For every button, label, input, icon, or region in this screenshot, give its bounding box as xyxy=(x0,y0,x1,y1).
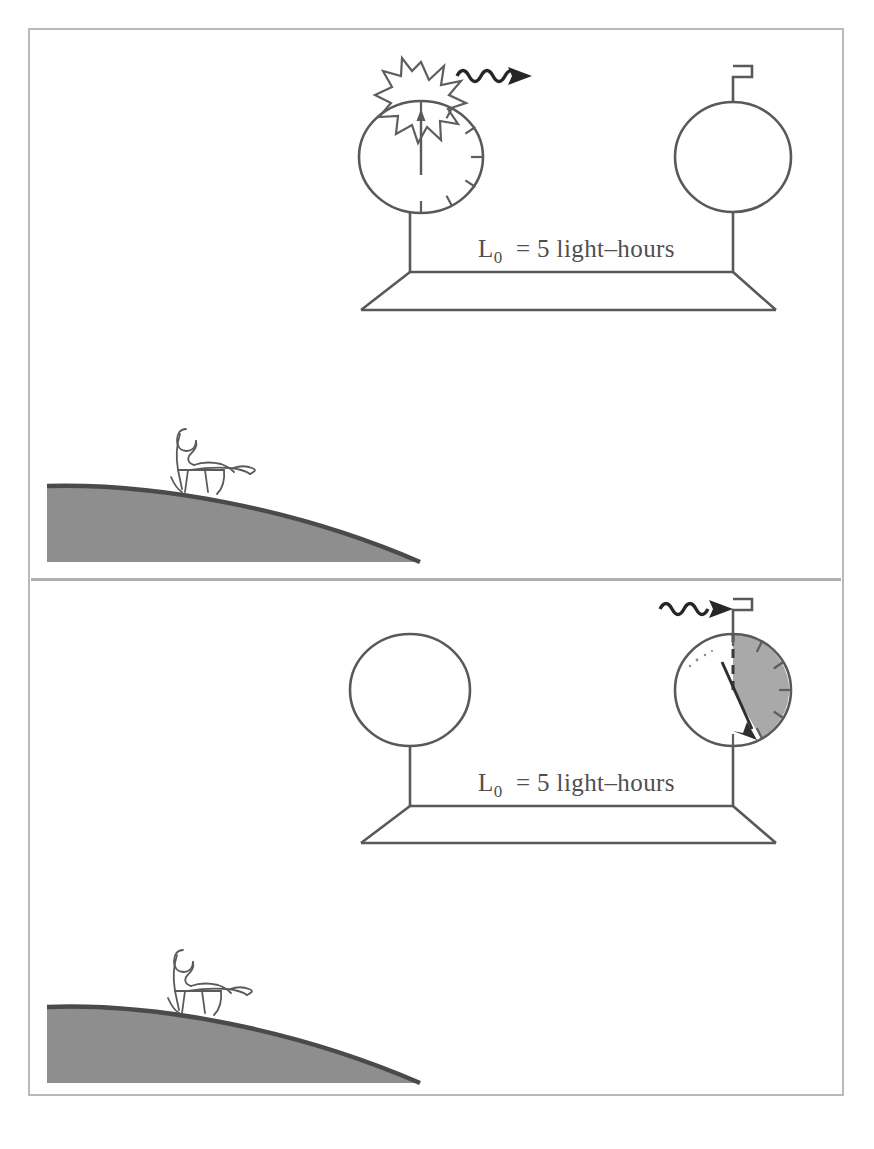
receiver-antenna-icon-bottom xyxy=(733,599,752,636)
physics-figure: L0 = 5 light–hours xyxy=(0,0,874,1149)
light-pulse-wave-bottom xyxy=(660,600,733,618)
receiving-clock-bottom xyxy=(675,599,791,746)
stipple-dots xyxy=(689,650,713,667)
hillside-bottom xyxy=(47,1007,420,1083)
platform-bottom xyxy=(361,806,776,843)
panel-bottom: L0 = 5 light–hours xyxy=(0,0,874,1149)
emitting-clock-bottom xyxy=(350,634,470,746)
panel-bottom-graphics xyxy=(0,0,874,1149)
seated-observer-bottom xyxy=(168,950,252,1015)
distance-label-bottom: L0 = 5 light–hours xyxy=(478,769,675,802)
